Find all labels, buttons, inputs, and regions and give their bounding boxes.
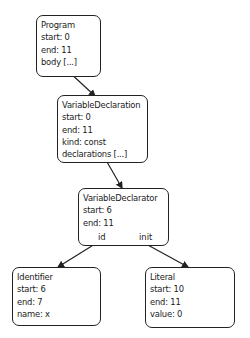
node-field-kind: kind: const: [62, 136, 143, 148]
node-field-end: end: 11: [150, 296, 230, 308]
edge-variable-declarator-to-identifier: [58, 244, 95, 267]
edge-variable-declarator-to-literal: [146, 244, 188, 267]
node-variable-declarator: VariableDeclarator start: 6 end: 11: [78, 188, 169, 246]
node-field-value: value: 0: [150, 308, 230, 320]
node-title: VariableDeclarator: [83, 192, 164, 204]
node-field-name: name: x: [17, 308, 96, 320]
node-title: Identifier: [17, 271, 96, 283]
node-field-start: start: 6: [17, 283, 96, 295]
node-field-start: start: 10: [150, 283, 230, 295]
node-title: VariableDeclaration: [62, 99, 143, 111]
node-program: Program start: 0 end: 11 body [...]: [36, 15, 101, 77]
node-field-start: start: 6: [83, 204, 164, 216]
node-field-declarations: declarations [...]: [62, 148, 143, 160]
edge-label-id: id: [98, 232, 106, 242]
node-field-start: start: 0: [62, 111, 143, 123]
node-literal: Literal start: 10 end: 11 value: 0: [145, 267, 235, 328]
node-field-end: end: 7: [17, 296, 96, 308]
node-field-end: end: 11: [62, 124, 143, 136]
node-identifier: Identifier start: 6 end: 7 name: x: [12, 267, 101, 326]
node-field-start: start: 0: [41, 31, 96, 43]
node-variable-declaration: VariableDeclaration start: 0 end: 11 kin…: [57, 95, 148, 163]
node-title: Literal: [150, 271, 230, 283]
edge-label-init: init: [139, 232, 152, 242]
node-field-body: body [...]: [41, 56, 96, 68]
node-title: Program: [41, 19, 96, 31]
node-field-end: end: 11: [83, 217, 164, 229]
node-field-end: end: 11: [41, 44, 96, 56]
